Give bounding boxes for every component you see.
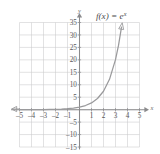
y-axis-name-label: y: [77, 7, 81, 14]
x-tick-label: –5: [15, 112, 24, 120]
x-tick-label: 2: [102, 112, 106, 120]
y-tick-label: 15: [70, 69, 78, 77]
x-tick-label: 5: [138, 112, 142, 120]
x-tick-label: –3: [39, 112, 48, 120]
exponential-function-graph: –5–4–3–2–112345 –15–10–55101520253035 x …: [0, 0, 160, 154]
function-label-exponent: x: [123, 10, 127, 17]
x-tick-label: –2: [51, 112, 60, 120]
y-tick-label: –15: [65, 144, 77, 152]
x-tick-label: 3: [114, 112, 118, 120]
function-label-prefix: f(x) = e: [96, 11, 124, 21]
function-label: f(x) = ex: [96, 10, 127, 21]
y-tick-label: 20: [70, 56, 78, 64]
y-tick-label: 10: [70, 81, 78, 89]
x-tick-label: 4: [126, 112, 130, 120]
y-tick-label: 35: [70, 19, 78, 27]
y-tick-label: 30: [70, 32, 78, 40]
x-tick-label: 1: [90, 112, 94, 120]
plot-canvas: –5–4–3–2–112345 –15–10–55101520253035 x …: [0, 0, 160, 154]
y-tick-label: –5: [69, 119, 78, 127]
x-axis-name-label: x: [150, 104, 154, 111]
y-tick-label: 25: [70, 44, 78, 52]
y-tick-label: 5: [73, 94, 77, 102]
x-tick-label: –4: [27, 112, 36, 120]
y-tick-label: –10: [65, 131, 77, 139]
